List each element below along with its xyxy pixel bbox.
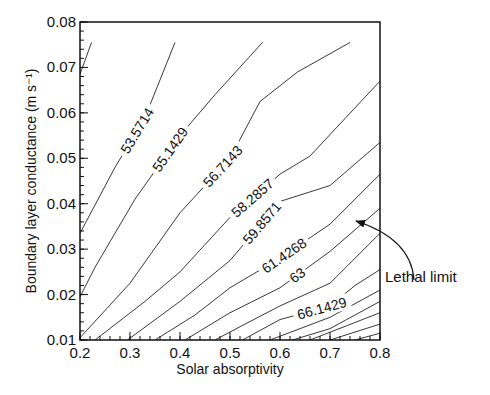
y-tick-label: 0.06 bbox=[47, 104, 76, 121]
contour-label: 55.1429 bbox=[147, 121, 194, 178]
svg-text:63: 63 bbox=[286, 264, 308, 286]
contour-label: 66.1429 bbox=[291, 293, 352, 324]
contour-line bbox=[80, 42, 350, 337]
y-tick-label: 0.07 bbox=[47, 58, 76, 75]
x-tick-label: 0.3 bbox=[120, 344, 141, 361]
svg-text:66.1429: 66.1429 bbox=[295, 294, 348, 323]
contour-label: 56.7143 bbox=[197, 139, 248, 193]
contour-line bbox=[185, 208, 380, 340]
contour-labels: 53.571455.142956.714358.285759.857161.42… bbox=[115, 101, 352, 323]
y-tick-label: 0.05 bbox=[47, 149, 76, 166]
svg-text:56.7143: 56.7143 bbox=[200, 142, 246, 190]
y-tick-label: 0.04 bbox=[47, 195, 76, 212]
y-tick-label: 0.08 bbox=[47, 13, 76, 30]
contour-chart: 53.571455.142956.714358.285759.857161.42… bbox=[0, 0, 490, 395]
svg-text:55.1429: 55.1429 bbox=[149, 124, 191, 175]
contour-line bbox=[80, 42, 263, 296]
annotation-label: Lethal limit bbox=[385, 268, 458, 285]
y-tick-label: 0.03 bbox=[47, 240, 76, 257]
y-axis-title: Boundary layer conductance (m s⁻¹) bbox=[23, 69, 39, 294]
contour-line bbox=[355, 333, 380, 340]
x-tick-label: 0.5 bbox=[220, 344, 241, 361]
x-tick-label: 0.8 bbox=[370, 344, 391, 361]
contour-label: 63 bbox=[285, 263, 310, 287]
y-axis-ticks: 0.010.020.030.040.050.060.070.08 bbox=[47, 13, 88, 348]
x-tick-label: 0.6 bbox=[270, 344, 291, 361]
contour-label: 53.5714 bbox=[115, 101, 159, 159]
svg-text:53.5714: 53.5714 bbox=[117, 105, 157, 157]
y-tick-label: 0.02 bbox=[47, 286, 76, 303]
x-tick-label: 0.4 bbox=[170, 344, 191, 361]
y-tick-label: 0.01 bbox=[47, 331, 76, 348]
x-axis-title: Solar absorptivity bbox=[176, 361, 283, 377]
contour-line bbox=[330, 324, 380, 340]
x-tick-label: 0.7 bbox=[320, 344, 341, 361]
